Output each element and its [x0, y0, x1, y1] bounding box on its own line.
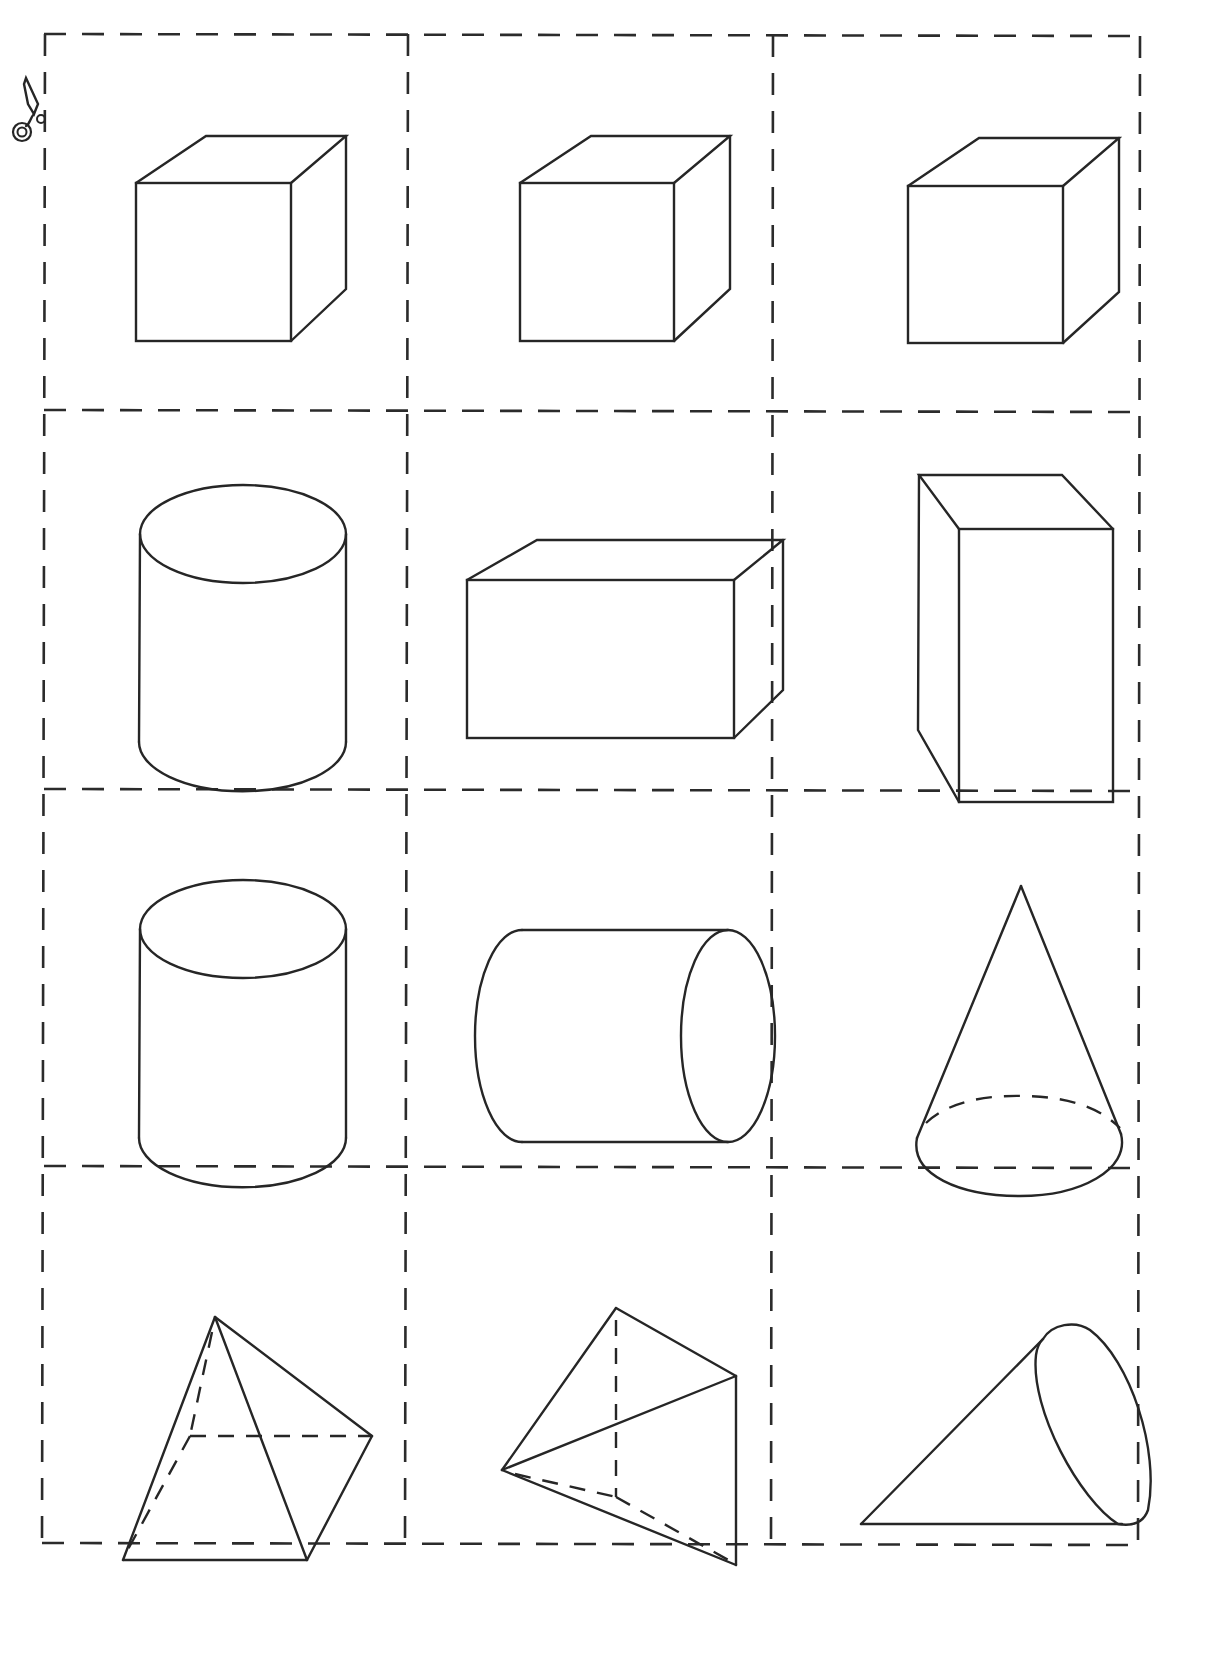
card-cube-2[interactable] [408, 35, 774, 410]
card-cube-3[interactable] [774, 36, 1140, 411]
card-cone-lying[interactable] [772, 1168, 1151, 1545]
card-rectangular-prism-vertical[interactable] [774, 412, 1140, 802]
card-rectangular-prism-horizontal[interactable] [408, 411, 783, 789]
card-cylinder-upright-2[interactable] [44, 790, 407, 1187]
card-cylinder-upright-1[interactable] [45, 411, 408, 791]
shapes-cutout-sheet [0, 0, 1231, 1669]
card-cube-1[interactable] [45, 35, 408, 410]
scissors-icon [13, 78, 45, 141]
card-cylinder-lying[interactable] [407, 790, 775, 1167]
card-square-pyramid[interactable] [43, 1167, 406, 1560]
card-cone-upright[interactable] [773, 791, 1139, 1196]
card-triangular-pyramid[interactable] [406, 1167, 772, 1565]
